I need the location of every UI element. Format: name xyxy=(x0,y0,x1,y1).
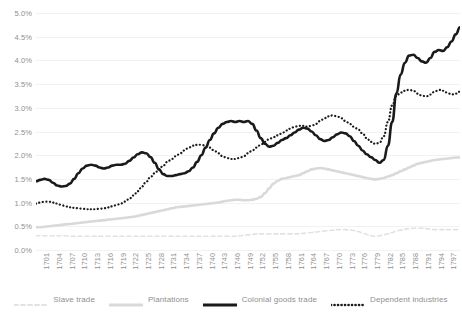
x-tick-label: 1791 xyxy=(425,253,433,269)
x-tick-label: 1785 xyxy=(399,253,407,269)
series-line xyxy=(36,27,460,186)
chart-container: 0.0%0.5%1.0%1.5%2.0%2.5%3.0%3.5%4.0%4.5%… xyxy=(0,0,462,314)
x-tick-label: 1773 xyxy=(349,253,357,269)
x-tick-label: 1725 xyxy=(145,253,153,269)
x-tick-label: 1737 xyxy=(196,253,204,269)
x-tick-label: 1707 xyxy=(69,253,77,269)
x-tick-label: 1758 xyxy=(285,253,293,269)
x-tick-label: 1713 xyxy=(94,253,102,269)
legend-item[interactable]: Dependent industries xyxy=(331,295,448,304)
x-tick-label: 1740 xyxy=(209,253,217,269)
legend-swatch-icon xyxy=(14,295,48,303)
legend-label: Dependent industries xyxy=(370,295,448,304)
y-tick-label: 4.5% xyxy=(15,32,33,41)
x-tick-label: 1731 xyxy=(170,253,178,269)
x-tick-label: 1716 xyxy=(107,253,115,269)
x-tick-label: 1728 xyxy=(158,253,166,269)
y-tick-label: 1.5% xyxy=(15,174,33,183)
y-tick-label: 4.0% xyxy=(15,56,33,65)
series-line xyxy=(36,228,460,236)
legend-label: Plantations xyxy=(148,295,189,304)
legend-item[interactable]: Slave trade xyxy=(14,295,95,304)
y-tick-label: 1.0% xyxy=(15,198,33,207)
x-tick-label: 1734 xyxy=(183,253,191,269)
x-tick-label: 1764 xyxy=(310,253,318,269)
legend-item[interactable]: Colonial goods trade xyxy=(203,295,317,304)
x-tick-label: 1749 xyxy=(247,253,255,269)
x-tick-label: 1710 xyxy=(81,253,89,269)
x-tick-label: 1779 xyxy=(374,253,382,269)
plot-lines xyxy=(36,0,460,252)
y-tick-label: 3.0% xyxy=(15,103,33,112)
legend-label: Colonial goods trade xyxy=(242,295,317,304)
y-axis: 0.0%0.5%1.0%1.5%2.0%2.5%3.0%3.5%4.0%4.5%… xyxy=(0,0,36,258)
x-tick-label: 1770 xyxy=(336,253,344,269)
y-tick-label: 2.5% xyxy=(15,127,33,136)
legend-swatch-icon xyxy=(109,295,143,303)
legend-swatch-icon xyxy=(203,295,237,303)
x-tick-label: 1761 xyxy=(298,253,306,269)
y-tick-label: 0.0% xyxy=(15,246,33,255)
x-tick-label: 1746 xyxy=(234,253,242,269)
x-axis: 1701170417071710171317161719172217251728… xyxy=(36,251,460,289)
x-tick-label: 1776 xyxy=(361,253,369,269)
x-tick-label: 1794 xyxy=(438,253,446,269)
x-tick-label: 1797 xyxy=(450,253,458,269)
x-tick-label: 1755 xyxy=(272,253,280,269)
legend-label: Slave trade xyxy=(53,295,95,304)
plot-area xyxy=(36,0,460,252)
x-tick-label: 1722 xyxy=(132,253,140,269)
y-tick-label: 2.0% xyxy=(15,151,33,160)
legend-item[interactable]: Plantations xyxy=(109,295,189,304)
x-tick-label: 1701 xyxy=(43,253,51,269)
x-tick-label: 1704 xyxy=(56,253,64,269)
x-tick-label: 1782 xyxy=(387,253,395,269)
y-tick-label: 0.5% xyxy=(15,222,33,231)
legend-swatch-icon xyxy=(331,295,365,303)
chart-legend: Slave tradePlantationsColonial goods tra… xyxy=(0,291,462,307)
x-tick-label: 1788 xyxy=(412,253,420,269)
y-tick-label: 3.5% xyxy=(15,80,33,89)
x-tick-label: 1743 xyxy=(221,253,229,269)
y-tick-label: 5.0% xyxy=(15,9,33,18)
x-tick-label: 1752 xyxy=(259,253,267,269)
x-tick-label: 1719 xyxy=(120,253,128,269)
x-tick-label: 1767 xyxy=(323,253,331,269)
series-line xyxy=(36,90,460,209)
